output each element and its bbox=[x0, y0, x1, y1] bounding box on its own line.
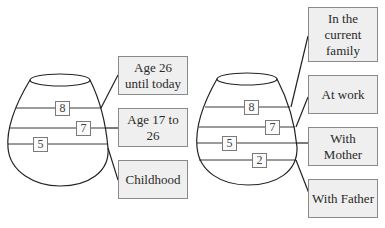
label-box-period: Age 17 to 26 bbox=[118, 108, 188, 147]
label-box-context: With Mother bbox=[308, 127, 378, 166]
layer-value-box: 5 bbox=[222, 136, 237, 151]
right-vase bbox=[197, 36, 310, 196]
label-text: Age 26 until today bbox=[122, 60, 184, 92]
label-text: With Mother bbox=[312, 131, 374, 163]
layer-value-box: 7 bbox=[265, 120, 280, 135]
left-vase bbox=[8, 74, 118, 186]
layer-value-box: 8 bbox=[55, 101, 70, 116]
layer-value-box: 5 bbox=[33, 137, 48, 152]
label-box-context: With Father bbox=[308, 179, 378, 218]
label-text: Age 17 to 26 bbox=[122, 112, 184, 144]
label-box-period: Childhood bbox=[118, 160, 188, 199]
label-text: At work bbox=[322, 87, 365, 103]
label-box-context: In the current family bbox=[308, 7, 378, 62]
layer-value-box: 7 bbox=[76, 121, 91, 136]
label-box-context: At work bbox=[308, 75, 378, 114]
layer-value-box: 2 bbox=[252, 153, 267, 168]
layer-value-box: 8 bbox=[244, 100, 259, 115]
label-text: Childhood bbox=[126, 172, 181, 188]
label-box-period: Age 26 until today bbox=[118, 56, 188, 95]
label-text: In the current family bbox=[312, 11, 374, 59]
label-text: With Father bbox=[312, 191, 374, 207]
